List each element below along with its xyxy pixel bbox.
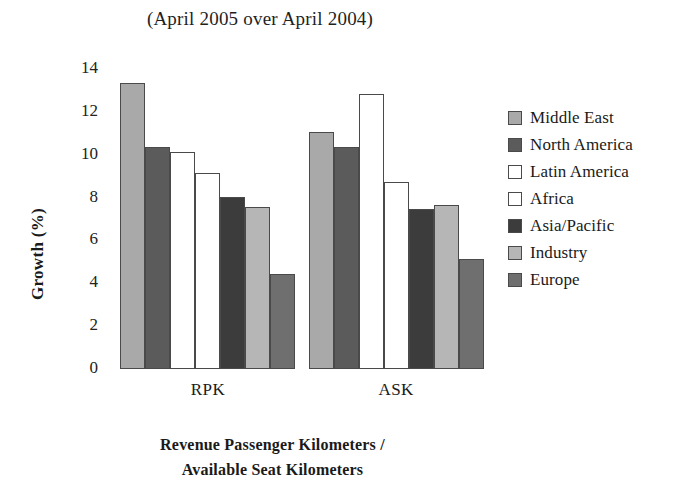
y-axis-label: Growth (%) [28, 208, 48, 300]
legend-label: Europe [530, 270, 580, 290]
bar[interactable] [309, 132, 334, 368]
plot-area: 02468101214 [108, 68, 500, 368]
bar[interactable] [459, 259, 484, 368]
legend-label: Latin America [530, 162, 629, 182]
legend-swatch-icon [508, 219, 522, 233]
legend-label: Asia/Pacific [530, 216, 614, 236]
legend-swatch-icon [508, 192, 522, 206]
bar[interactable] [245, 207, 270, 368]
bar-groups [108, 68, 500, 368]
y-tick-label: 4 [52, 272, 98, 292]
legend-label: Middle East [530, 108, 614, 128]
bar[interactable] [359, 94, 384, 368]
y-tick-label: 12 [52, 101, 98, 121]
legend-label: Africa [530, 189, 574, 209]
legend-item[interactable]: Industry [508, 239, 633, 266]
bar[interactable] [384, 182, 409, 368]
group-baseline [120, 368, 295, 369]
legend-swatch-icon [508, 138, 522, 152]
bar-group-ask [309, 68, 484, 368]
bar[interactable] [145, 147, 170, 368]
y-tick-label: 2 [52, 315, 98, 335]
legend-item[interactable]: Latin America [508, 158, 633, 185]
legend-swatch-icon [508, 165, 522, 179]
x-category-label-rpk: RPK [191, 380, 225, 400]
group-baseline [309, 368, 484, 369]
y-tick-label: 6 [52, 229, 98, 249]
y-axis-label-container: Growth (%) [6, 120, 34, 300]
y-tick-label: 10 [52, 144, 98, 164]
chart-title: (April 2005 over April 2004) [0, 8, 520, 30]
y-tick-label: 0 [52, 358, 98, 378]
legend-label: North America [530, 135, 633, 155]
bar[interactable] [409, 209, 434, 368]
x-category-label-ask: ASK [379, 380, 414, 400]
bar[interactable] [334, 147, 359, 368]
legend-label: Industry [530, 243, 587, 263]
legend-swatch-icon [508, 111, 522, 125]
bar-group-rpk [120, 68, 295, 368]
x-axis-category-labels: RPKASK [108, 380, 500, 404]
y-tick-label: 8 [52, 187, 98, 207]
bar[interactable] [120, 83, 145, 368]
bar[interactable] [170, 152, 195, 368]
bar[interactable] [434, 205, 459, 368]
y-tick-label: 14 [52, 58, 98, 78]
legend-item[interactable]: Africa [508, 185, 633, 212]
chart-root: (April 2005 over April 2004) Growth (%) … [0, 0, 693, 493]
x-axis-title: Revenue Passenger Kilometers / Available… [40, 432, 505, 482]
legend-item[interactable]: Asia/Pacific [508, 212, 633, 239]
legend-swatch-icon [508, 246, 522, 260]
bar[interactable] [270, 274, 295, 368]
bar[interactable] [195, 173, 220, 368]
x-axis-title-line-1: Revenue Passenger Kilometers / [40, 432, 505, 457]
x-axis-title-line-2: Available Seat Kilometers [40, 457, 505, 482]
chart-legend: Middle EastNorth AmericaLatin AmericaAfr… [508, 104, 633, 293]
bar[interactable] [220, 197, 245, 368]
legend-item[interactable]: North America [508, 131, 633, 158]
legend-swatch-icon [508, 273, 522, 287]
legend-item[interactable]: Europe [508, 266, 633, 293]
legend-item[interactable]: Middle East [508, 104, 633, 131]
